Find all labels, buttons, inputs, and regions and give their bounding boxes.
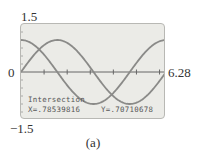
intersection-x-value: X=.78539816 [28, 106, 80, 113]
x-min-label: 0 [8, 66, 15, 79]
calculator-screen: Intersection X=.78539816 Y=.70710678 [20, 23, 165, 119]
y-max-label: 1.5 [21, 10, 37, 23]
intersection-title: Intersection [28, 96, 85, 103]
y-min-label: −1.5 [10, 122, 34, 135]
x-max-label: 6.28 [168, 66, 191, 79]
figure-caption: (a) [0, 135, 186, 151]
intersection-y-value: Y=.70710678 [101, 106, 153, 113]
